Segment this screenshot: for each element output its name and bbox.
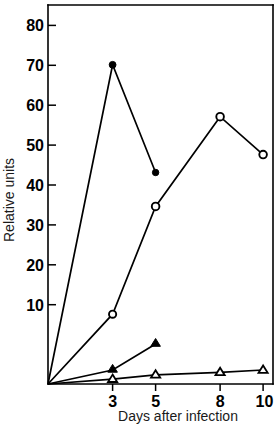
filled-circle-marker-day3 (109, 61, 116, 68)
open-circle-marker-day10 (259, 151, 267, 159)
filled-circle-marker-day5 (152, 169, 158, 175)
chart-figure: 80 70 60 50 40 30 20 10 3 5 8 10 (0, 0, 278, 424)
y-tick-label-60: 60 (26, 97, 44, 114)
open-circle-marker-day3 (109, 311, 116, 318)
y-tick-label-40: 40 (26, 177, 44, 194)
x-axis-title: Days after infection (118, 408, 238, 424)
x-tick-label-3: 3 (108, 393, 117, 410)
y-tick-label-30: 30 (26, 217, 44, 234)
y-tick-label-50: 50 (26, 137, 44, 154)
y-tick-label-10: 10 (26, 297, 44, 314)
y-tick-label-20: 20 (26, 257, 44, 274)
y-axis-title: Relative units (1, 158, 17, 242)
y-tick-label-70: 70 (26, 57, 44, 74)
y-tick-label-80: 80 (26, 17, 44, 34)
x-tick-label-10: 10 (256, 393, 274, 410)
open-circle-marker-day5 (152, 203, 160, 211)
line-chart-canvas: 80 70 60 50 40 30 20 10 3 5 8 10 (0, 0, 278, 424)
open-circle-marker-day8 (216, 113, 224, 121)
